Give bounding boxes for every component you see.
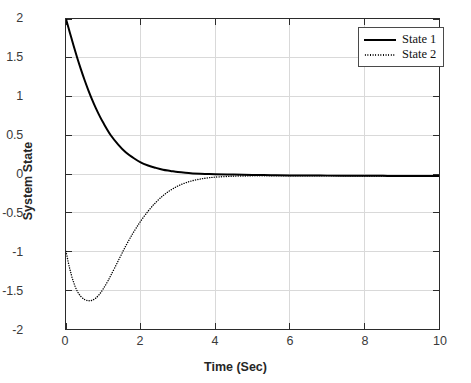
legend-item[interactable]: State 2: [364, 47, 436, 62]
y-tick-label: 0: [0, 167, 23, 181]
x-tick-label: 6: [260, 334, 320, 348]
legend-line-sample-dotted: [364, 50, 396, 60]
y-tick-label: 1.5: [0, 50, 23, 64]
x-axis-label: Time (Sec): [0, 360, 471, 374]
chart-figure: System State 21.510.50-0.5-1-1.5-2 02468…: [0, 0, 471, 383]
y-tick-label: -0.5: [0, 206, 23, 220]
x-tick-label: 8: [335, 334, 395, 348]
legend-item-label: State 1: [402, 32, 436, 47]
y-tick-label: 2: [0, 11, 23, 25]
x-tick-label: 10: [410, 334, 470, 348]
legend-item[interactable]: State 1: [364, 32, 436, 47]
legend-item-label: State 2: [402, 47, 436, 62]
y-tick-label: 0.5: [0, 128, 23, 142]
legend-line-sample-solid: [364, 35, 396, 45]
y-tick-label: -2: [0, 323, 23, 337]
chart-legend: State 1State 2: [358, 27, 444, 67]
x-tick-label: 2: [110, 334, 170, 348]
x-tick-label: 4: [185, 334, 245, 348]
series-line-state-2: [66, 176, 439, 301]
y-axis-label: System State: [21, 101, 35, 261]
y-tick-label: -1.5: [0, 284, 23, 298]
y-tick-label: 1: [0, 89, 23, 103]
y-tick-label: -1: [0, 245, 23, 259]
x-tick-label: 0: [35, 334, 95, 348]
